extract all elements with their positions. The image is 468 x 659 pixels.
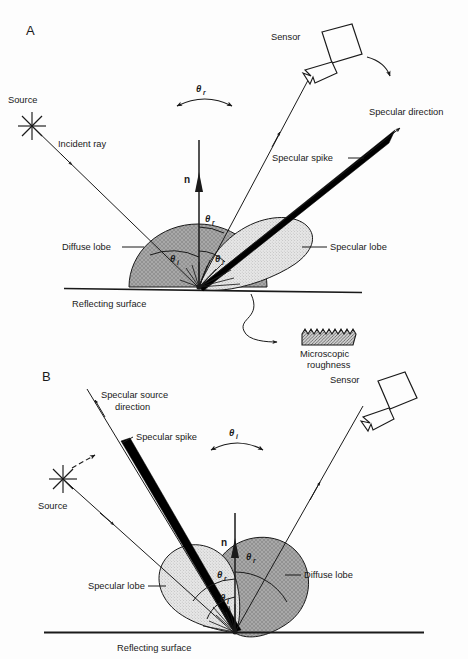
panel-a-sweep-label: θ: [196, 83, 202, 94]
panel-a-theta-i-label: θ: [170, 253, 176, 264]
panel-a-origin-point: [196, 284, 201, 289]
panel-b-theta-r-inner-subscript: r: [224, 575, 227, 582]
panel-a-reflecting-surface-label: Reflecting surface: [72, 299, 146, 309]
panel-b-label: B: [42, 369, 51, 384]
panel-a-incident-ray-label: Incident ray: [58, 139, 106, 149]
panel-b-theta-r-outer-subscript: r: [253, 557, 256, 564]
panel-b-sweep-label: θ: [229, 427, 235, 438]
panel-b-theta-r-outer-label: θ: [246, 551, 252, 562]
panel-b-specular-lobe-label: Specular lobe: [88, 581, 145, 591]
panel-b-theta-i-subscript: i: [227, 598, 229, 605]
panel-b-sweep-subscript: i: [236, 433, 238, 440]
panel-a-specular-direction-label: Specular direction: [369, 107, 443, 117]
panel-a-roughness-label-line1: Microscopic: [300, 349, 349, 359]
panel-b-normal-label: n: [221, 537, 227, 548]
panel-a-sensor-label: Sensor: [271, 32, 300, 42]
panel-a-source-label: Source: [8, 95, 37, 105]
panel-b-reflecting-surface-label: Reflecting surface: [117, 643, 191, 653]
brdf-lobes-figure: A n θ: [0, 0, 468, 659]
roughness-icon: [302, 329, 356, 345]
panel-b-source-icon: [49, 465, 77, 493]
panel-b-specular-source-direction-line1: Specular source: [101, 390, 168, 400]
panel-b-theta-i-label: θ: [220, 592, 226, 603]
panel-a-roughness-label-line2: roughness: [307, 360, 351, 370]
source-icon: [18, 112, 46, 140]
panel-a-specular-lobe-label: Specular lobe: [330, 242, 387, 252]
panel-a-normal-label: n: [184, 174, 190, 185]
figure-root: A n θ: [0, 0, 468, 659]
panel-a-label: A: [26, 23, 35, 38]
panel-b-specular-source-direction-line2: direction: [115, 402, 150, 412]
panel-a-sweep-subscript: r: [203, 89, 206, 96]
panel-a-diffuse-lobe-label: Diffuse lobe: [62, 242, 111, 252]
panel-b-origin-point: [233, 630, 238, 635]
panel-a-theta-r-subscript: r: [212, 219, 215, 226]
panel-b-diffuse-lobe-label: Diffuse lobe: [304, 570, 353, 580]
panel-a-theta-r-label: θ: [205, 213, 211, 224]
panel-a-theta-i-subscript: i: [177, 259, 179, 266]
panel-b-sensor-label: Sensor: [330, 375, 359, 385]
panel-b-theta-r-inner-label: θ: [217, 569, 223, 580]
panel-a-theta-i2-subscript: i: [222, 259, 224, 266]
panel-a-specular-spike-label: Specular spike: [272, 153, 333, 163]
panel-a-theta-i2-label: θ: [215, 253, 221, 264]
panel-b-source-label: Source: [38, 501, 67, 511]
panel-b-specular-spike-label: Specular spike: [136, 432, 197, 442]
